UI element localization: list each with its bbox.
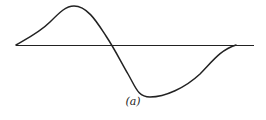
figure-label: (a)	[0, 95, 266, 108]
figure-label-text: (a)	[125, 95, 140, 108]
waveform-curve	[16, 6, 236, 97]
